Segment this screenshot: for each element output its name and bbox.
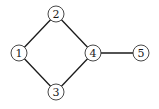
- node-label: 3: [53, 86, 60, 99]
- graph-diagram: 12345: [0, 0, 159, 109]
- node-3: 3: [48, 84, 64, 100]
- node-4: 4: [85, 45, 101, 61]
- node-label: 5: [138, 47, 145, 60]
- edges: [19, 14, 141, 92]
- node-label: 4: [90, 47, 97, 60]
- node-2: 2: [48, 6, 64, 22]
- node-5: 5: [133, 45, 149, 61]
- node-label: 2: [53, 8, 60, 21]
- node-label: 1: [16, 47, 23, 60]
- node-1: 1: [11, 45, 27, 61]
